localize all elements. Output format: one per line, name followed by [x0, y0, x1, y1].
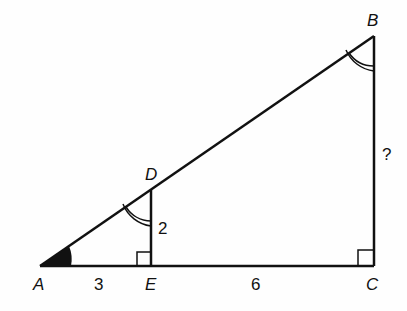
label-b: B: [367, 12, 378, 29]
angle-a-mark: [40, 246, 72, 266]
segment-ab: [40, 36, 374, 266]
length-ec: 6: [251, 276, 260, 293]
label-d: D: [145, 166, 157, 183]
length-de: 2: [158, 220, 167, 237]
label-c: C: [366, 276, 378, 293]
length-bc: ?: [382, 146, 391, 163]
right-angle-c: [358, 250, 374, 266]
label-a: A: [33, 276, 44, 293]
right-angle-e: [137, 252, 151, 266]
length-ae: 3: [94, 276, 103, 293]
diagram: B D A E C 3 6 2 ?: [0, 0, 407, 311]
triangle-figure: [0, 0, 407, 311]
label-e: E: [145, 276, 156, 293]
